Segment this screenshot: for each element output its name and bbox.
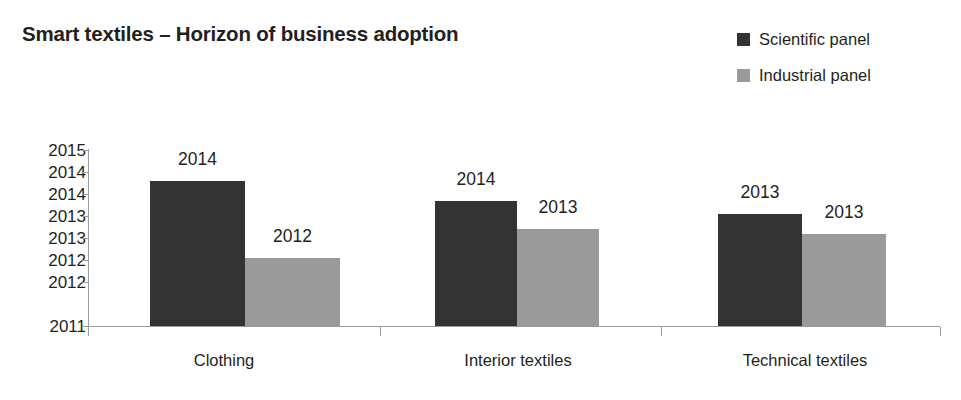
bar — [150, 181, 245, 326]
bar-value-label: 2013 — [698, 184, 822, 202]
y-axis-tick-mark — [82, 238, 88, 239]
x-axis-category-label: Technical textiles — [695, 352, 915, 369]
y-axis-tick-label: 2013 — [48, 230, 86, 247]
y-axis-tick-mark — [82, 172, 88, 173]
y-axis-tick-mark — [82, 150, 88, 151]
y-axis-tick-label: 2012 — [48, 274, 86, 291]
x-axis-separator-tick — [88, 327, 89, 336]
bar-value-label: 2012 — [225, 228, 360, 246]
bar-value-label: 2014 — [130, 151, 265, 169]
x-axis-category-label: Interior textiles — [408, 352, 628, 369]
bar-value-label: 2013 — [782, 204, 906, 222]
x-axis-separator-tick — [661, 327, 662, 336]
y-axis-tick-mark — [82, 194, 88, 195]
bar — [517, 229, 599, 326]
bar — [718, 214, 802, 326]
bar — [802, 234, 886, 326]
y-axis-tick-mark — [82, 260, 88, 261]
x-axis-line — [88, 326, 940, 327]
y-axis-tick-label: 2013 — [48, 208, 86, 225]
y-axis-tick-label: 2011 — [49, 318, 86, 335]
plot-area: 20152014201420132013201220122011 2014201… — [0, 0, 961, 400]
x-axis-category-label: Clothing — [114, 352, 334, 369]
y-axis-tick-label: 2015 — [48, 142, 86, 159]
bar-value-label: 2014 — [415, 171, 537, 189]
y-axis-tick-label: 2014 — [48, 186, 86, 203]
bar-value-label: 2013 — [497, 199, 619, 217]
y-axis-tick-mark — [82, 216, 88, 217]
y-axis-line — [88, 149, 89, 327]
bar — [435, 201, 517, 326]
y-axis-tick-mark — [82, 282, 88, 283]
y-axis-tick-label: 2012 — [48, 252, 86, 269]
x-axis-separator-tick — [380, 327, 381, 336]
x-axis-separator-tick — [940, 327, 941, 336]
bar — [245, 258, 340, 326]
y-axis-tick-label: 2014 — [48, 164, 86, 181]
